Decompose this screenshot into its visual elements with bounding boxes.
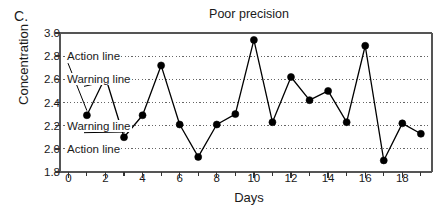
data-point-marker <box>362 42 369 49</box>
data-point-marker <box>399 120 406 127</box>
annotation-label: Warning line <box>66 73 132 85</box>
data-point-marker <box>417 130 424 137</box>
data-point-marker <box>83 112 90 119</box>
data-point-marker <box>195 153 202 160</box>
data-point-marker <box>213 121 220 128</box>
annotation-label: Action line <box>66 143 121 155</box>
data-point-marker <box>306 97 313 104</box>
data-point-marker <box>325 87 332 94</box>
data-point-marker <box>158 62 165 69</box>
series-polyline <box>87 40 421 160</box>
data-series-line <box>87 40 421 160</box>
annotation-leader-line <box>84 132 125 133</box>
data-point-marker <box>380 157 387 164</box>
data-point-marker <box>139 112 146 119</box>
data-point-marker <box>176 121 183 128</box>
annotation-label: Warning line <box>66 120 132 132</box>
line-chart-plot <box>0 0 445 211</box>
data-point-markers <box>83 36 424 163</box>
annotation-label: Action line <box>66 50 121 62</box>
data-point-marker <box>250 36 257 43</box>
annotation-leader-line <box>68 63 87 110</box>
data-point-marker <box>287 74 294 81</box>
data-point-marker <box>269 119 276 126</box>
data-point-marker <box>121 134 128 141</box>
data-point-marker <box>343 119 350 126</box>
data-point-marker <box>232 111 239 118</box>
figure-panel-c: C. Poor precision Concentration Days 3.0… <box>0 0 445 211</box>
